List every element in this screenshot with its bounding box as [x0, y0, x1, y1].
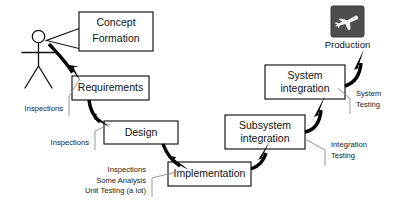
annotation-system-testing: System Testing [356, 89, 381, 109]
annotation-design: Inspections [51, 138, 90, 147]
box-subsystem-integration-label-1: Subsystem [239, 119, 291, 131]
annotation-implementation-line-3: Unit Testing (a lot) [85, 186, 147, 195]
diagram-svg: Concept Formation Requirements Design Im… [0, 0, 398, 212]
box-design-label: Design [125, 126, 158, 138]
box-concept-formation-label-1: Concept [96, 16, 135, 28]
annotation-implementation-line-1: Inspections [108, 165, 147, 174]
actor-leg-left [25, 66, 39, 88]
actor-leg-right [39, 66, 53, 88]
diagram-canvas: Concept Formation Requirements Design Im… [0, 0, 398, 212]
annotation-implementation-line-2: Some Analysis [96, 176, 146, 185]
box-system-integration-label-1: System [287, 69, 322, 81]
annotation-requirements: Inspections [25, 104, 64, 113]
box-concept-formation-label-2: Formation [92, 32, 139, 44]
box-system-integration[interactable]: System integration [265, 65, 345, 99]
production-label: Production [325, 39, 370, 50]
box-requirements-label: Requirements [78, 81, 143, 93]
arrow-head-production [354, 49, 364, 70]
box-design[interactable]: Design [104, 121, 178, 144]
box-subsystem-integration[interactable]: Subsystem integration [225, 115, 305, 149]
leader-integration [305, 139, 325, 166]
annotation-integration-line-1: Integration [331, 140, 367, 149]
production-node[interactable]: Production [325, 6, 370, 50]
annotation-integration-testing: Integration Testing [331, 140, 367, 160]
flow-arrow-system-to-production [345, 49, 364, 86]
annotation-requirements-line-1: Inspections [25, 104, 64, 113]
flow-arrow-subsystem-to-system [305, 96, 325, 132]
annotation-integration-line-2: Testing [331, 151, 355, 160]
annotation-system-line-2: Testing [356, 100, 380, 109]
box-subsystem-integration-label-2: integration [240, 132, 289, 144]
box-system-integration-label-2: integration [280, 82, 329, 94]
actor-head-icon [32, 30, 44, 42]
annotation-design-line-1: Inspections [51, 138, 90, 147]
box-implementation-label: Implementation [174, 167, 246, 179]
annotation-implementation: Inspections Some Analysis Unit Testing (… [85, 165, 147, 195]
box-requirements[interactable]: Requirements [72, 76, 149, 100]
annotation-system-line-1: System [356, 89, 381, 98]
box-concept-formation[interactable]: Concept Formation [79, 12, 153, 51]
